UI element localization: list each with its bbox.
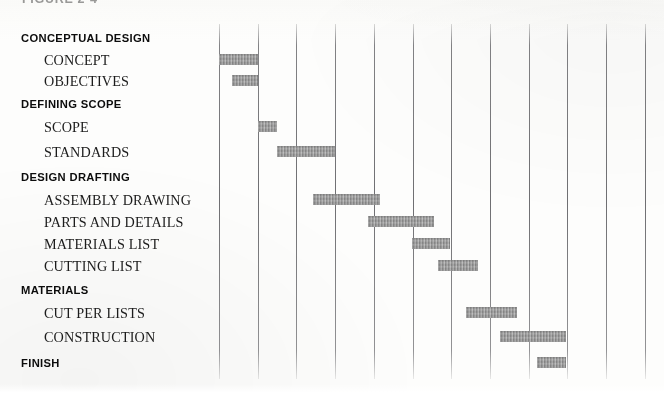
- task-row: DESIGN DRAFTING: [0, 167, 231, 187]
- task-row: STANDARDS: [0, 142, 254, 162]
- task-label: STANDARDS: [44, 144, 129, 161]
- task-row: OBJECTIVES: [0, 71, 254, 91]
- task-label: CUTTING LIST: [44, 258, 142, 275]
- task-row: MATERIALS: [0, 280, 231, 300]
- phase-label: CONCEPTUAL DESIGN: [21, 32, 150, 44]
- phase-label: DEFINING SCOPE: [21, 98, 122, 110]
- phase-label: FINISH: [21, 357, 60, 369]
- gridline: [606, 24, 607, 379]
- gantt-bar: [258, 121, 277, 132]
- task-label: PARTS AND DETAILS: [44, 214, 184, 231]
- task-label: MATERIALS LIST: [44, 236, 159, 253]
- task-label: CUT PER LISTS: [44, 305, 145, 322]
- gantt-bar: [412, 238, 450, 249]
- task-row: CONCEPTUAL DESIGN: [0, 28, 231, 48]
- gridline: [296, 24, 297, 379]
- gridline: [413, 24, 414, 379]
- task-row: CUTTING LIST: [0, 256, 254, 276]
- gantt-bar: [438, 260, 478, 271]
- task-label: CONCEPT: [44, 52, 110, 69]
- gantt-chart-page: FIGURE 2-4 CONCEPTUAL DESIGNCONCEPTOBJEC…: [0, 0, 664, 396]
- task-label-column: CONCEPTUAL DESIGNCONCEPTOBJECTIVESDEFINI…: [0, 0, 210, 396]
- gantt-bar: [277, 146, 335, 157]
- gridline: [258, 24, 259, 379]
- phase-label: MATERIALS: [21, 284, 89, 296]
- task-row: CUT PER LISTS: [0, 303, 254, 323]
- gridline: [451, 24, 452, 379]
- task-row: CONSTRUCTION: [0, 327, 254, 347]
- task-label: CONSTRUCTION: [44, 329, 155, 346]
- task-row: MATERIALS LIST: [0, 234, 254, 254]
- task-row: SCOPE: [0, 117, 254, 137]
- gantt-bar: [500, 331, 566, 342]
- gridline: [490, 24, 491, 379]
- gantt-bar: [313, 194, 380, 205]
- gantt-bar: [466, 307, 517, 318]
- task-label: ASSEMBLY DRAWING: [44, 192, 191, 209]
- gridline: [645, 24, 646, 379]
- task-row: DEFINING SCOPE: [0, 94, 231, 114]
- task-label: OBJECTIVES: [44, 73, 129, 90]
- task-row: PARTS AND DETAILS: [0, 212, 254, 232]
- task-row: CONCEPT: [0, 50, 254, 70]
- gantt-bar: [368, 216, 434, 227]
- gridline: [529, 24, 530, 379]
- task-row: FINISH: [0, 353, 231, 373]
- phase-label: DESIGN DRAFTING: [21, 171, 130, 183]
- gridline: [567, 24, 568, 379]
- task-row: ASSEMBLY DRAWING: [0, 190, 254, 210]
- gantt-bar: [537, 357, 566, 368]
- task-label: SCOPE: [44, 119, 89, 136]
